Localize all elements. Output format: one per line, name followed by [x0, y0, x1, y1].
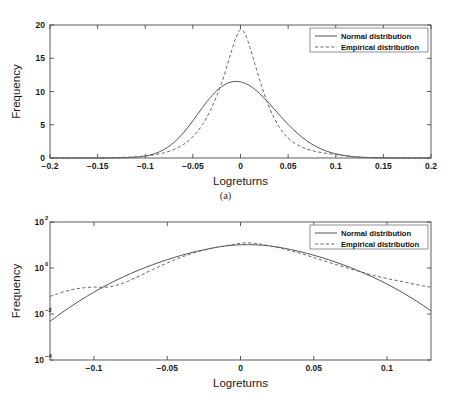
x-tick-label: 0.15: [375, 161, 392, 171]
chart-panel-a: −0.2−0.15−0.1−0.0500.050.10.150.20510152…: [0, 0, 451, 210]
figure-container: −0.2−0.15−0.1−0.0500.050.10.150.20510152…: [0, 0, 451, 419]
legend-label: Empirical distribution: [341, 240, 419, 249]
y-tick-label: 10: [35, 217, 45, 227]
y-tick-label: 15: [36, 53, 46, 63]
y-tick-exponent: −2: [45, 307, 52, 313]
series-curve-empirical: [50, 243, 431, 297]
y-tick-label: 20: [36, 20, 46, 30]
x-tick-label: −0.05: [156, 363, 178, 373]
legend-label: Normal distribution: [341, 229, 411, 238]
series-curve-normal: [50, 81, 431, 158]
y-tick-exponent: 2: [45, 215, 48, 221]
x-tick-label: 0.05: [280, 161, 297, 171]
chart-a-svg: −0.2−0.15−0.1−0.0500.050.10.150.20510152…: [0, 0, 451, 190]
legend-label: Normal distribution: [341, 32, 411, 41]
y-tick-label: 0: [40, 153, 45, 163]
chart-b-legend[interactable]: Normal distributionEmpirical distributio…: [310, 225, 428, 249]
y-tick-exponent: 0: [45, 261, 48, 267]
x-tick-label: −0.05: [182, 161, 204, 171]
chart-b-curves: [50, 243, 431, 321]
x-tick-label: −0.15: [87, 161, 109, 171]
series-curve-normal: [50, 245, 431, 322]
y-tick-label: 10: [35, 263, 45, 273]
chart-a-x-axis-label: Logreturns: [213, 175, 268, 187]
x-tick-label: 0.2: [425, 161, 437, 171]
chart-b-y-axis-label: Frequency: [10, 264, 22, 319]
y-tick-label: 10: [35, 309, 45, 319]
x-tick-label: 0: [238, 161, 243, 171]
x-tick-label: −0.1: [86, 363, 103, 373]
chart-b-svg: −0.1−0.0500.050.110−410−2100102 Normal d…: [0, 210, 451, 399]
x-tick-label: 0.1: [330, 161, 342, 171]
chart-a-y-axis-label: Frequency: [10, 64, 22, 119]
y-tick-exponent: −4: [45, 353, 52, 359]
x-tick-label: −0.1: [137, 161, 154, 171]
legend-label: Empirical distribution: [341, 43, 419, 52]
subfigure-caption-a: (a): [0, 190, 451, 201]
x-tick-label: 0.1: [381, 363, 393, 373]
chart-panel-b: −0.1−0.0500.050.110−410−2100102 Normal d…: [0, 210, 451, 419]
chart-a-legend[interactable]: Normal distributionEmpirical distributio…: [310, 28, 428, 52]
y-tick-label: 10: [36, 87, 46, 97]
y-tick-label: 5: [40, 120, 45, 130]
chart-b-x-axis-label: Logreturns: [213, 377, 268, 389]
y-tick-label: 10: [35, 355, 45, 365]
x-tick-label: 0.05: [305, 363, 322, 373]
x-tick-label: 0: [238, 363, 243, 373]
